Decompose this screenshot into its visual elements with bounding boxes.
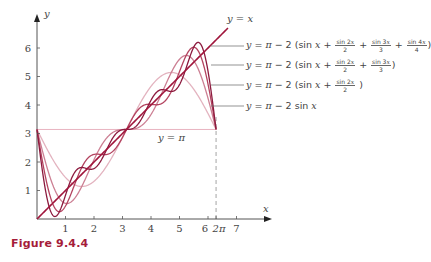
label-y-equals-pi: y = π (158, 132, 185, 143)
axis-label-y: y (44, 8, 50, 19)
x-tick-label: 4 (148, 223, 154, 234)
label-series-n3: y = π − 2 (sin x + sin 2x2 + sin 3x3) (246, 58, 396, 73)
label-series-n2: y = π − 2 (sin x + sin 2x2 ) (246, 78, 363, 93)
label-series-n4: y = π − 2 (sin x + sin 2x2 + sin 3x3 + s… (246, 38, 431, 53)
y-tick-label: 1 (25, 185, 31, 196)
x-tick-label: 7 (233, 223, 239, 234)
curve-y-equals-x (37, 28, 228, 219)
label-series-n1: y = π − 2 sin x (246, 100, 317, 111)
x-tick-label: 1 (62, 223, 68, 234)
y-tick-label: 4 (25, 100, 31, 111)
x-tick-label: 3 (119, 223, 125, 234)
axis-label-x: x (263, 203, 269, 214)
y-tick-label: 2 (25, 157, 31, 168)
x-tick-label: 2π (212, 223, 226, 234)
y-tick-label: 5 (25, 71, 31, 82)
x-axis-arrow-icon (264, 216, 272, 222)
y-tick-label: 3 (25, 128, 31, 139)
x-tick-label: 2 (91, 223, 97, 234)
y-tick-label: 6 (25, 43, 31, 54)
x-tick-label: 6 (202, 223, 208, 234)
axes (34, 14, 272, 222)
label-leader-lines (211, 46, 244, 106)
y-axis-arrow-icon (34, 14, 40, 22)
label-y-equals-x: y = x (227, 13, 253, 24)
curves (37, 28, 228, 219)
figure-caption: Figure 9.4.4 (11, 237, 88, 250)
x-tick-label: 5 (176, 223, 182, 234)
